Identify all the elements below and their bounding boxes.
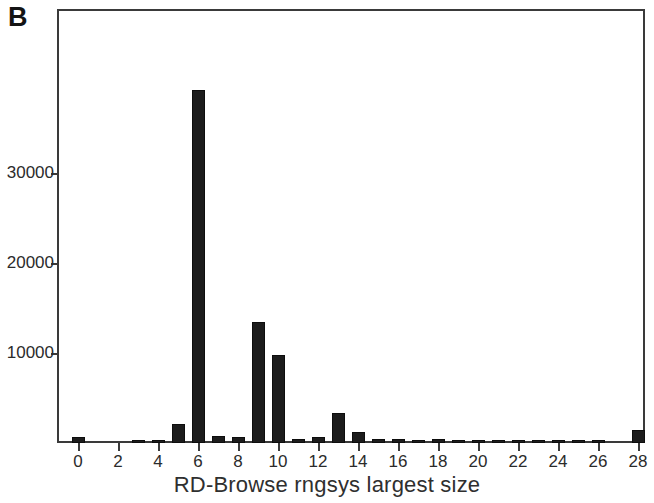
x-axis-tick — [118, 443, 120, 451]
bar — [272, 355, 285, 443]
x-axis-tick — [238, 443, 240, 451]
bar — [132, 440, 145, 443]
bar — [372, 439, 385, 444]
x-axis-tick — [198, 443, 200, 451]
panel-label: B — [8, 4, 28, 31]
bar — [492, 440, 505, 443]
bar — [352, 432, 365, 443]
x-axis-tick — [158, 443, 160, 451]
bar — [532, 440, 545, 443]
x-axis-tick — [358, 443, 360, 451]
x-axis-tick-label: 28 — [629, 452, 648, 472]
x-axis-tick-label: 22 — [509, 452, 528, 472]
x-axis-tick-label: 10 — [269, 452, 288, 472]
x-axis-tick-label: 18 — [429, 452, 448, 472]
x-axis-tick — [598, 443, 600, 451]
bar — [572, 440, 585, 443]
x-axis-tick — [638, 443, 640, 451]
y-axis-tick-label: 30000 — [0, 163, 54, 183]
x-axis-tick — [478, 443, 480, 451]
bar — [192, 90, 205, 443]
bar — [452, 440, 465, 443]
x-axis-tick-label: 26 — [589, 452, 608, 472]
y-axis-tick-label: 10000 — [0, 343, 54, 363]
x-axis-tick-label: 16 — [389, 452, 408, 472]
x-axis-tick-label: 6 — [193, 452, 202, 472]
bar — [412, 440, 425, 443]
bar — [292, 439, 305, 444]
x-axis-tick — [518, 443, 520, 451]
x-axis-tick — [558, 443, 560, 451]
x-axis-tick — [318, 443, 320, 451]
x-axis-tick-label: 4 — [153, 452, 162, 472]
bar — [332, 413, 345, 443]
x-axis-tick-label: 14 — [349, 452, 368, 472]
x-axis-title: RD-Browse rngsys largest size — [0, 472, 654, 498]
x-axis-tick — [398, 443, 400, 451]
x-axis-tick — [278, 443, 280, 451]
x-axis-tick-label: 20 — [469, 452, 488, 472]
x-axis-tick-label: 12 — [309, 452, 328, 472]
x-axis-tick-label: 24 — [549, 452, 568, 472]
y-axis-tick-label: 20000 — [0, 253, 54, 273]
bar — [252, 322, 265, 443]
bar — [212, 436, 225, 443]
x-axis-tick — [438, 443, 440, 451]
figure-panel-b: B 100002000030000 0246810121416182022242… — [0, 0, 654, 503]
bar — [632, 430, 645, 444]
x-axis-tick-label: 2 — [113, 452, 122, 472]
x-axis-tick-label: 8 — [233, 452, 242, 472]
x-axis-tick-label: 0 — [73, 452, 82, 472]
bar — [172, 424, 185, 443]
x-axis-tick — [78, 443, 80, 451]
plot-area — [57, 9, 645, 443]
